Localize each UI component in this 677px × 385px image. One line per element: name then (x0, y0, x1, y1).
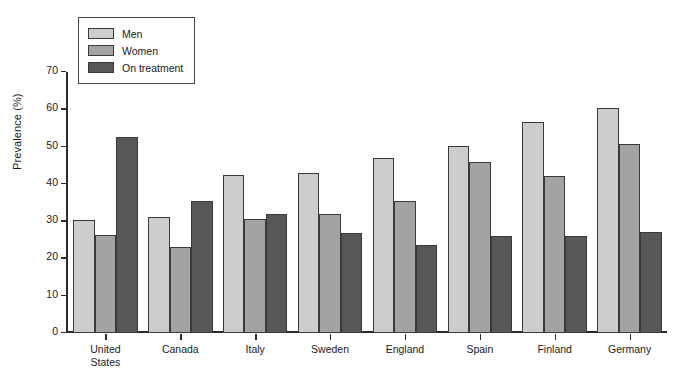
x-tick-label: Spain (466, 343, 493, 356)
x-tick-label: Italy (246, 343, 265, 356)
bar-group (148, 72, 213, 333)
y-tick-mark (61, 108, 66, 109)
bar-group (298, 72, 363, 333)
bar-group (73, 72, 138, 333)
bar (394, 201, 416, 333)
x-tick-mark (105, 334, 106, 340)
bar-group (448, 72, 513, 333)
bar (116, 137, 138, 333)
y-tick-label: 70 (46, 64, 58, 76)
x-tick-mark (555, 334, 556, 340)
y-tick-mark (61, 183, 66, 184)
bar (223, 175, 245, 333)
y-axis-tick: 20 (35, 257, 66, 258)
legend-item: Men (88, 25, 183, 42)
y-tick-mark (61, 295, 66, 296)
bar (448, 146, 470, 333)
bar (298, 173, 320, 333)
bar-group (223, 72, 288, 333)
chart-legend: MenWomenOn treatment (78, 17, 195, 84)
bar (191, 201, 213, 333)
bar (619, 144, 641, 333)
y-tick-label: 10 (46, 288, 58, 300)
bar (266, 214, 288, 333)
bar (95, 235, 117, 333)
y-tick-mark (61, 220, 66, 221)
bar-chart: Prevalence (%) 010203040506070 United St… (0, 0, 677, 385)
bar (491, 236, 513, 333)
y-tick-label: 60 (46, 101, 58, 113)
legend-item: On treatment (88, 59, 183, 76)
bar (640, 232, 662, 333)
legend-swatch-icon (88, 45, 114, 56)
x-tick-label: England (386, 343, 425, 356)
bar-group (522, 72, 587, 333)
y-tick-label: 40 (46, 176, 58, 188)
y-tick-label: 0 (52, 325, 58, 337)
x-tick-mark (255, 334, 256, 340)
bar (416, 245, 438, 333)
y-tick-label: 50 (46, 139, 58, 151)
bar (565, 236, 587, 333)
bar (73, 220, 95, 333)
y-axis-tick: 30 (35, 220, 66, 221)
legend-label: On treatment (122, 62, 183, 74)
y-axis-tick: 70 (35, 71, 66, 72)
x-tick-label: Canada (162, 343, 199, 356)
y-axis-tick: 50 (35, 146, 66, 147)
y-tick-mark (61, 146, 66, 147)
x-tick-label: Finland (537, 343, 571, 356)
y-axis-tick: 10 (35, 295, 66, 296)
y-axis-title: Prevalence (%) (11, 50, 23, 170)
plot-area: 010203040506070 (66, 72, 667, 333)
x-tick-label: United States (90, 343, 120, 368)
x-tick-label: Germany (608, 343, 651, 356)
bar (522, 122, 544, 333)
legend-swatch-icon (88, 28, 114, 39)
legend-item: Women (88, 42, 183, 59)
y-tick-mark (61, 332, 66, 333)
x-axis-ticks: United StatesCanadaItalySwedenEnglandSpa… (68, 334, 667, 384)
bar (244, 219, 266, 333)
bar (319, 214, 341, 333)
y-axis-tick: 60 (35, 108, 66, 109)
legend-label: Men (122, 28, 142, 40)
bar (373, 158, 395, 333)
y-axis-tick: 40 (35, 183, 66, 184)
x-tick-mark (405, 334, 406, 340)
bar-group (597, 72, 662, 333)
bar-group (373, 72, 438, 333)
y-tick-label: 30 (46, 213, 58, 225)
bar (341, 233, 363, 333)
bar (544, 176, 566, 333)
x-tick-mark (180, 334, 181, 340)
y-tick-mark (61, 257, 66, 258)
bar (469, 162, 491, 333)
y-axis-tick: 0 (35, 332, 66, 333)
legend-label: Women (122, 45, 158, 57)
bars-layer (68, 72, 667, 333)
legend-swatch-icon (88, 62, 114, 73)
x-tick-mark (330, 334, 331, 340)
y-tick-mark (61, 71, 66, 72)
x-tick-label: Sweden (311, 343, 349, 356)
y-tick-label: 20 (46, 250, 58, 262)
x-tick-mark (480, 334, 481, 340)
bar (148, 217, 170, 333)
x-tick-mark (630, 334, 631, 340)
bar (597, 108, 619, 333)
bar (170, 247, 192, 333)
